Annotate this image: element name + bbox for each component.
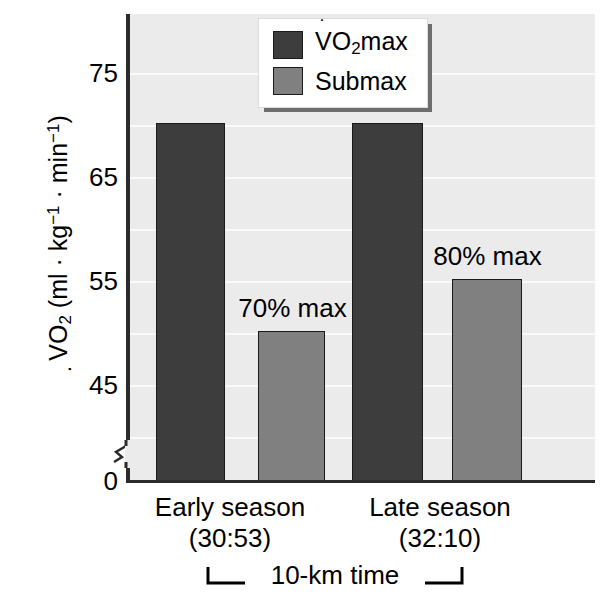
y-tick-0: 0 (58, 468, 118, 494)
legend-swatch-submax (273, 67, 303, 95)
x-category-late-season: Late season (32:10) (330, 492, 550, 554)
legend-item-vo2max: V̇O2max (273, 29, 408, 61)
legend-swatch-vo2max (273, 31, 303, 59)
x-category-late-line2: (32:10) (330, 523, 550, 554)
bar-early-submax (258, 331, 325, 481)
x-category-early-season: Early season (30:53) (120, 492, 340, 554)
y-axis-title: · VO2 (ml · kg−1 · min−1) (40, 35, 80, 455)
chart-figure: 70% max 80% max V̇O2max Submax 75 65 55 … (0, 0, 605, 602)
x-category-early-line1: Early season (120, 492, 340, 523)
bar-late-submax (452, 279, 522, 481)
x-axis-group-label: 10-km time (245, 562, 425, 588)
legend-item-submax: Submax (273, 65, 407, 97)
x-category-late-line1: Late season (330, 492, 550, 523)
x-category-early-line2: (30:53) (120, 523, 340, 554)
chart-legend: V̇O2max Submax (258, 18, 428, 108)
y-axis-line (126, 14, 130, 480)
plot-area: 70% max 80% max V̇O2max Submax (130, 14, 595, 480)
x-axis-line (126, 480, 595, 483)
legend-label-submax: Submax (315, 69, 407, 94)
legend-label-vo2max: V̇O2max (315, 29, 408, 61)
annotation-early-submax: 70% max (215, 295, 370, 321)
annotation-late-submax: 80% max (410, 243, 565, 269)
